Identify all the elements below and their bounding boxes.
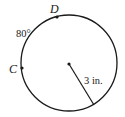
center-point [67,62,70,65]
radius-length-label: 3 in. [84,75,103,86]
point-c [20,66,23,69]
diagram-canvas: D C 80° 3 in. [0,0,125,117]
circle-diagram: D C 80° 3 in. [0,0,125,117]
arc-measure-label: 80° [16,28,31,39]
label-c: C [9,62,18,76]
label-d: D [49,2,59,16]
